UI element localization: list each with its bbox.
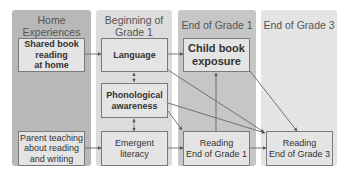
title-line: Beginning of [96,14,172,26]
node-text: exposure [188,55,245,68]
title-line: Home [12,14,91,26]
node-text: literacy [115,149,154,160]
column-title-home: Home Experiences [12,14,91,38]
node-text: End of Grade 1 [186,149,247,160]
title-line: End of Grade 1 [178,19,256,31]
node-reading-end-grade3: Reading End of Grade 3 [266,131,333,166]
column-title-end-g1: End of Grade 1 [178,19,256,31]
node-shared-book-reading: Shared book reading at home [18,38,85,72]
node-phonological-awareness: Phonological awareness [101,83,168,118]
node-text: reading [24,50,79,61]
node-text: Shared book [24,39,79,50]
node-child-book-exposure: Child book exposure [183,38,250,72]
node-text: at home [24,60,79,71]
node-parent-teaching: Parent teaching about reading and writin… [18,131,85,166]
node-reading-end-grade1: Reading End of Grade 1 [183,131,250,166]
node-text: Language [113,50,156,61]
node-text: Emergent [115,138,154,149]
node-text: awareness [106,101,163,112]
node-text: about reading [20,143,83,154]
node-text: End of Grade 3 [269,149,330,160]
node-emergent-literacy: Emergent literacy [101,131,168,166]
node-text: Reading [269,138,330,149]
title-line: Experiences [12,26,91,38]
title-line: End of Grade 3 [261,19,337,31]
node-text: Child book [188,42,245,55]
column-title-end-g3: End of Grade 3 [261,19,337,31]
title-line: Grade 1 [96,26,172,38]
node-text: Reading [186,138,247,149]
node-language: Language [101,38,168,72]
column-title-beginning-g1: Beginning of Grade 1 [96,14,172,38]
node-text: Phonological [106,90,163,101]
node-text: Parent teaching [20,133,83,144]
node-text: and writing [20,154,83,165]
